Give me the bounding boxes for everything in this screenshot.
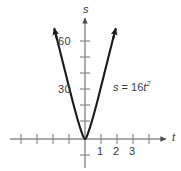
graph-canvas xyxy=(0,0,181,171)
x-tick-label-1: 1 xyxy=(97,146,103,157)
x-tick-label-3: 3 xyxy=(129,146,135,157)
x-tick-label-2: 2 xyxy=(113,146,119,157)
y-axis xyxy=(80,18,90,168)
equation-exponent: 2 xyxy=(146,80,150,87)
curve-arrow-left xyxy=(54,28,57,39)
y-axis-name: s xyxy=(83,4,89,15)
x-axis-name: t xyxy=(172,132,175,143)
y-tick-label-60: 60 xyxy=(58,36,71,47)
y-tick-label-30: 30 xyxy=(58,84,71,95)
equation-coefficient: 16 xyxy=(131,81,143,93)
equation-label: s = 16t2 xyxy=(113,82,150,93)
curve-arrow-right xyxy=(113,28,116,39)
graph-figure: 60 30 1 2 3 s t s = 16t2 xyxy=(0,0,181,171)
